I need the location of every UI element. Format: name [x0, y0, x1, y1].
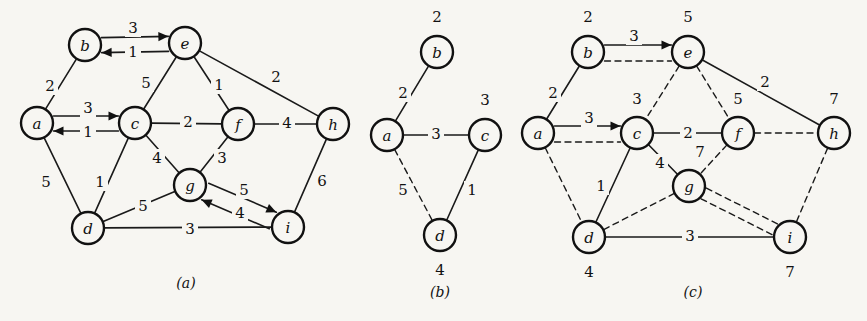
edge-weight-label: 3 [584, 109, 594, 127]
edge-weight-label: 1 [467, 181, 477, 199]
node-c-i[interactable]: i [774, 221, 806, 253]
edge-c-g-i [706, 188, 778, 224]
edge-a-b-a: 2 [42, 59, 76, 109]
node-label: d [584, 229, 594, 247]
edge-weight-label: 2 [271, 68, 281, 86]
edge-weight-label: 5 [141, 74, 151, 92]
distance-label-c-h: 7 [829, 90, 839, 108]
edge-a-g-i: 4 [202, 199, 270, 228]
node-a-h[interactable]: h [317, 108, 349, 140]
panel-b: 2351bacd234(b) [371, 8, 501, 300]
edge-weight-label: 4 [655, 154, 665, 172]
edge-c-e-f [697, 66, 730, 119]
node-label: c [633, 125, 642, 143]
edge-weight-label: 2 [548, 84, 558, 102]
node-label: i [286, 219, 291, 237]
node-c-f[interactable]: f [722, 117, 754, 149]
distance-label-c-d: 4 [584, 263, 594, 281]
edge-weight-label: 4 [235, 204, 245, 222]
node-label: c [481, 127, 490, 145]
edge-c-b-e: 3 [605, 27, 672, 50]
node-a-i[interactable]: i [272, 211, 304, 243]
edge-b-c-d: 1 [447, 150, 480, 220]
edge-weight-label: 3 [629, 27, 639, 45]
node-b-c[interactable]: c [469, 119, 501, 151]
node-a-a[interactable]: a [21, 107, 53, 139]
edge-c-c-g: 4 [649, 145, 678, 174]
edge-c-a-b: 2 [545, 66, 579, 119]
edge-weight-label: 3 [431, 125, 441, 143]
node-a-f[interactable]: f [222, 108, 254, 140]
edge-weight-label: 5 [41, 173, 51, 191]
node-c-d[interactable]: d [573, 221, 605, 253]
edge-b-a-b: 2 [395, 66, 428, 121]
node-c-a[interactable]: a [522, 117, 554, 149]
edge-weight-label: 2 [398, 84, 408, 102]
edge-weight-label: 5 [398, 181, 408, 199]
edge-a-d-g: 5 [103, 191, 175, 221]
node-c-b[interactable]: b [572, 36, 604, 68]
node-b-b[interactable]: b [421, 36, 453, 68]
node-a-b[interactable]: b [69, 29, 101, 61]
node-c-c[interactable]: c [621, 117, 653, 149]
edge-line [604, 193, 675, 229]
node-label: a [33, 115, 42, 133]
node-label: a [534, 125, 543, 143]
edge-a-a-c: 1 [54, 123, 119, 141]
distance-label-c-g: 7 [695, 143, 705, 161]
node-b-a[interactable]: a [371, 119, 403, 151]
edge-a-c-g: 4 [146, 135, 179, 172]
node-a-g[interactable]: g [174, 169, 206, 201]
edge-arrowhead [54, 126, 64, 135]
node-a-d[interactable]: d [72, 212, 104, 244]
panel-caption-b: (b) [430, 284, 450, 300]
edge-weight-label: 2 [45, 77, 55, 95]
edge-line [697, 66, 730, 119]
edge-weight-label: 4 [152, 149, 162, 167]
edge-arrowhead [109, 111, 119, 120]
edge-c-c-f: 2 [654, 124, 722, 142]
edge-weight-label: 1 [128, 43, 138, 61]
edge-line [646, 66, 679, 119]
graph-figure-canvas: 2315123152413465453beacfhgdi(a)2351bacd2… [0, 0, 867, 321]
node-label: d [83, 220, 93, 238]
edge-a-b-e: 3 [101, 19, 168, 41]
edge-a-c-d: 1 [92, 138, 128, 213]
node-label: b [583, 44, 593, 62]
edge-weight-label: 5 [239, 181, 249, 199]
node-b-d[interactable]: d [424, 219, 456, 251]
edge-a-a-c: 3 [54, 99, 119, 121]
node-a-e[interactable]: e [169, 27, 201, 59]
edge-c-a-c: 3 [555, 109, 621, 131]
edge-weight-label: 1 [214, 76, 224, 94]
edge-line [545, 148, 581, 222]
edge-c-h-i [796, 148, 827, 222]
edge-weight-label: 3 [185, 220, 195, 238]
edge-a-a-d: 5 [38, 138, 81, 213]
node-c-g[interactable]: g [673, 170, 705, 202]
edge-weight-label: 4 [282, 114, 292, 132]
node-label: h [829, 125, 839, 143]
node-c-h[interactable]: h [818, 117, 850, 149]
node-label: h [328, 116, 338, 134]
edge-line [796, 148, 827, 222]
edge-line [706, 188, 778, 224]
edge-c-a-d [545, 148, 581, 222]
edge-weight-label: 2 [183, 113, 193, 131]
node-label: e [181, 35, 190, 53]
edge-arrowhead [662, 40, 672, 49]
distance-label-c-i: 7 [785, 263, 795, 281]
node-a-c[interactable]: c [119, 107, 151, 139]
edge-weight-label: 3 [217, 149, 227, 167]
edge-c-e-h: 2 [702, 60, 819, 125]
figure-container: 2315123152413465453beacfhgdi(a)2351bacd2… [0, 0, 867, 321]
edge-a-e-c: 5 [138, 57, 176, 109]
distance-label-c-e: 5 [683, 8, 693, 26]
edge-arrowhead [611, 121, 621, 130]
edge-weight-label: 2 [683, 124, 693, 142]
node-c-e[interactable]: e [672, 36, 704, 68]
edge-a-f-g: 3 [200, 137, 230, 172]
edge-weight-label: 1 [95, 173, 105, 191]
edge-weight-label: 3 [83, 99, 93, 117]
edge-b-a-c: 3 [404, 125, 469, 143]
